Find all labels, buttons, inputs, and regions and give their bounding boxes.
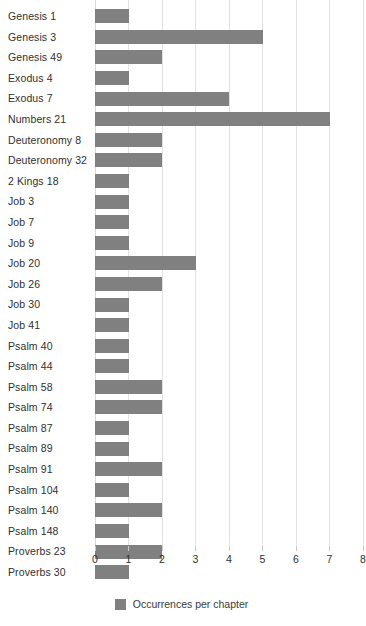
bar-row — [95, 6, 363, 27]
x-tick-label: 8 — [360, 553, 366, 565]
bar-row — [95, 500, 363, 521]
bar — [95, 277, 162, 291]
category-label: Psalm 44 — [0, 356, 95, 377]
category-label: Psalm 91 — [0, 459, 95, 480]
legend-swatch-occurrences — [115, 599, 126, 610]
x-tick-mark — [296, 546, 297, 551]
x-tick-label: 5 — [260, 553, 266, 565]
category-label: Genesis 3 — [0, 27, 95, 48]
bar — [95, 195, 129, 209]
bar-row — [95, 109, 363, 130]
x-tick-mark — [229, 546, 230, 551]
category-label: Psalm 140 — [0, 500, 95, 521]
bar-row — [95, 171, 363, 192]
category-label: Job 9 — [0, 233, 95, 254]
category-label: Psalm 104 — [0, 480, 95, 501]
category-label: Psalm 58 — [0, 377, 95, 398]
bar — [95, 421, 129, 435]
bar-row — [95, 88, 363, 109]
bar — [95, 442, 129, 456]
bar-row — [95, 274, 363, 295]
x-tick-label: 2 — [159, 553, 165, 565]
x-tick-mark — [162, 546, 163, 551]
bar — [95, 524, 129, 538]
legend: Occurrences per chapter — [0, 598, 363, 610]
category-label: Numbers 21 — [0, 109, 95, 130]
category-label: Job 30 — [0, 294, 95, 315]
bar — [95, 359, 129, 373]
bar — [95, 462, 162, 476]
bar — [95, 503, 162, 517]
category-label: Psalm 148 — [0, 521, 95, 542]
bar-row — [95, 233, 363, 254]
x-tick-mark — [329, 546, 330, 551]
category-label: 2 Kings 18 — [0, 171, 95, 192]
category-label: Exodus 7 — [0, 88, 95, 109]
category-label: Deuteronomy 32 — [0, 150, 95, 171]
bar — [95, 318, 129, 332]
category-label: Genesis 49 — [0, 47, 95, 68]
bar — [95, 112, 330, 126]
x-tick-label: 0 — [92, 553, 98, 565]
x-tick-mark — [195, 546, 196, 551]
bars — [95, 6, 363, 546]
bar-row — [95, 68, 363, 89]
bar-row — [95, 356, 363, 377]
bar-row — [95, 47, 363, 68]
bar — [95, 256, 196, 270]
bar-row — [95, 459, 363, 480]
plot-column: 012345678 — [95, 0, 363, 572]
x-tick-mark — [363, 546, 364, 551]
bar-row — [95, 397, 363, 418]
bar-row — [95, 191, 363, 212]
x-tick-label: 1 — [126, 553, 132, 565]
bar-row — [95, 315, 363, 336]
bar — [95, 483, 129, 497]
category-label: Job 7 — [0, 212, 95, 233]
bar — [95, 380, 162, 394]
category-label: Proverbs 23 — [0, 541, 95, 562]
bar — [95, 339, 129, 353]
bar — [95, 153, 162, 167]
x-axis: 012345678 — [95, 546, 363, 572]
category-label: Exodus 4 — [0, 68, 95, 89]
category-label: Genesis 1 — [0, 6, 95, 27]
bar-row — [95, 438, 363, 459]
x-tick-mark — [128, 546, 129, 551]
bar — [95, 174, 129, 188]
bar — [95, 71, 129, 85]
category-label: Psalm 74 — [0, 397, 95, 418]
bar-row — [95, 212, 363, 233]
x-tick-label: 7 — [327, 553, 333, 565]
bar-row — [95, 294, 363, 315]
plot-area: Genesis 1Genesis 3Genesis 49Exodus 4Exod… — [0, 0, 363, 572]
bar-row — [95, 130, 363, 151]
bar-row — [95, 150, 363, 171]
x-tick-mark — [95, 546, 96, 551]
bar-row — [95, 480, 363, 501]
bar-row — [95, 27, 363, 48]
legend-label-occurrences: Occurrences per chapter — [133, 598, 249, 610]
bar-row — [95, 377, 363, 398]
category-label: Psalm 40 — [0, 336, 95, 357]
bar — [95, 30, 263, 44]
bar — [95, 215, 129, 229]
category-label: Job 20 — [0, 253, 95, 274]
x-tick-label: 6 — [293, 553, 299, 565]
bar — [95, 400, 162, 414]
bar — [95, 133, 162, 147]
bar — [95, 298, 129, 312]
x-tick-label: 4 — [226, 553, 232, 565]
category-label: Deuteronomy 8 — [0, 130, 95, 151]
x-tick-mark — [262, 546, 263, 551]
bar-row — [95, 521, 363, 542]
category-label: Proverbs 30 — [0, 562, 95, 583]
bar-row — [95, 253, 363, 274]
bar — [95, 9, 129, 23]
bar-row — [95, 418, 363, 439]
bar — [95, 236, 129, 250]
category-label: Psalm 87 — [0, 418, 95, 439]
category-axis-labels: Genesis 1Genesis 3Genesis 49Exodus 4Exod… — [0, 0, 95, 572]
category-label: Psalm 89 — [0, 438, 95, 459]
bar — [95, 50, 162, 64]
